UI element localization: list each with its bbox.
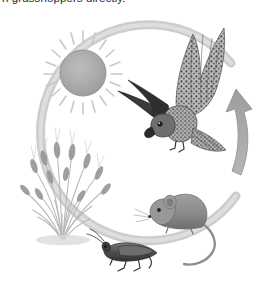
food-chain-illustration	[0, 0, 268, 290]
flow-arrow-icon	[226, 89, 252, 175]
diagram-canvas: n grasshoppers directly.	[0, 0, 268, 290]
